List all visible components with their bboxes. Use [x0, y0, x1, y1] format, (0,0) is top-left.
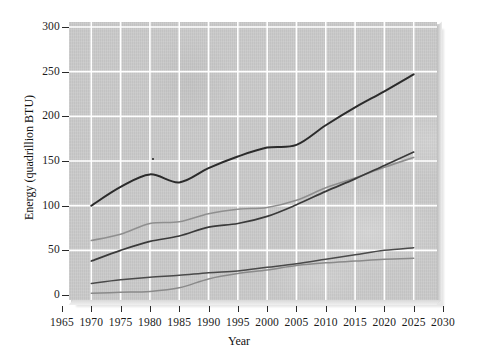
x-axis-title: Year	[0, 334, 478, 349]
x-tickmark	[121, 306, 122, 312]
x-tickmark	[209, 306, 210, 312]
x-tickmark	[355, 306, 356, 312]
y-tickmark	[62, 116, 69, 117]
energy-line-chart: Energy (quadrillion BTU) Year 3002502001…	[0, 0, 478, 352]
x-tickmark	[326, 306, 327, 312]
panel-bevel-bottom	[68, 300, 441, 305]
y-tickmark	[62, 295, 69, 296]
x-tickmark	[238, 306, 239, 312]
x-tickmark	[443, 306, 444, 312]
y-tick-label: 50	[20, 243, 60, 255]
data-series-layer	[69, 22, 437, 300]
panel-bevel-right	[437, 21, 442, 304]
x-tick-label: 2030	[423, 316, 463, 328]
y-tickmark	[62, 206, 69, 207]
y-tick-label: 0	[20, 288, 60, 300]
y-tick-label: 100	[20, 199, 60, 211]
x-tickmark	[414, 306, 415, 312]
series-line-upper-gray	[91, 157, 413, 240]
x-tickmark	[179, 306, 180, 312]
y-tick-label: 200	[20, 109, 60, 121]
y-tickmark	[62, 27, 69, 28]
series-line-lower-gray	[91, 258, 413, 293]
image-speck	[152, 158, 154, 160]
y-tickmark	[62, 250, 69, 251]
y-tickmark	[62, 72, 69, 73]
y-tick-label: 150	[20, 154, 60, 166]
series-line-mid-dark	[91, 152, 413, 261]
x-tickmark	[62, 306, 63, 312]
x-tickmark	[267, 306, 268, 312]
series-line-lower-dark	[91, 248, 413, 284]
x-tickmark	[384, 306, 385, 312]
series-line-total	[91, 74, 413, 205]
x-tickmark	[150, 306, 151, 312]
y-tick-label: 250	[20, 65, 60, 77]
x-tickmark	[296, 306, 297, 312]
x-tickmark	[91, 306, 92, 312]
y-tick-label: 300	[20, 20, 60, 32]
y-tickmark	[62, 161, 69, 162]
